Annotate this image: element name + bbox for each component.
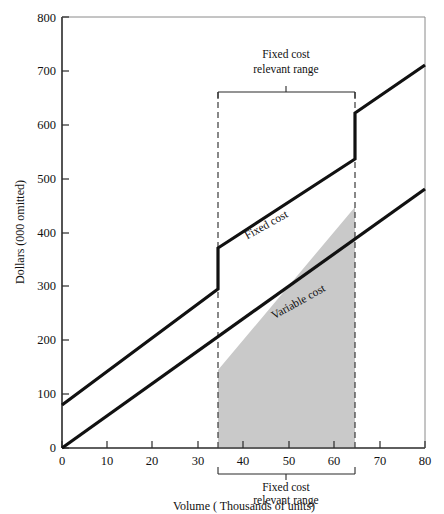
x-tick-label: 60 [328,454,341,468]
y-tick-label: 700 [37,64,56,78]
y-tick-label: 500 [37,172,56,186]
y-tick-label: 800 [37,11,56,25]
y-axis-title: Dollars (000 omitted) [13,180,27,284]
y-axis-ticks [62,17,69,448]
x-tick-label: 0 [59,454,65,468]
y-tick-label: 300 [37,279,56,293]
y-tick-label: 400 [37,226,56,240]
y-tick-label: 600 [37,118,56,132]
top-relevant-range-bracket [218,86,355,99]
x-tick-label: 30 [192,454,205,468]
x-tick-label: 10 [101,454,114,468]
x-tick-label: 70 [374,454,387,468]
x-tick-label: 50 [283,454,296,468]
x-tick-label: 20 [146,454,159,468]
fixed-cost-shaded-area [218,207,355,447]
top-bracket-label-line2: relevant range [253,63,318,76]
chart-figure: 0 100 200 300 400 500 600 700 800 0 10 [0,0,444,514]
y-tick-label: 100 [37,387,56,401]
x-axis-tick-labels: 0 10 20 30 40 50 60 70 80 [59,454,431,468]
x-tick-label: 80 [419,454,432,468]
x-axis-title: Volume ( Thousands of units) [173,499,315,513]
y-tick-label: 200 [37,333,56,347]
x-tick-label: 40 [237,454,250,468]
x-axis-ticks [62,441,425,448]
y-axis-tick-labels: 0 100 200 300 400 500 600 700 800 [37,11,56,455]
bottom-bracket-label-line1: Fixed cost [262,481,310,493]
bottom-relevant-range-bracket [218,467,355,480]
top-bracket-label-line1: Fixed cost [262,48,310,60]
fixed-cost-inline-label: Fixed cost [242,207,290,241]
cost-behavior-chart: 0 100 200 300 400 500 600 700 800 0 10 [0,0,444,514]
y-tick-label: 0 [50,441,56,455]
